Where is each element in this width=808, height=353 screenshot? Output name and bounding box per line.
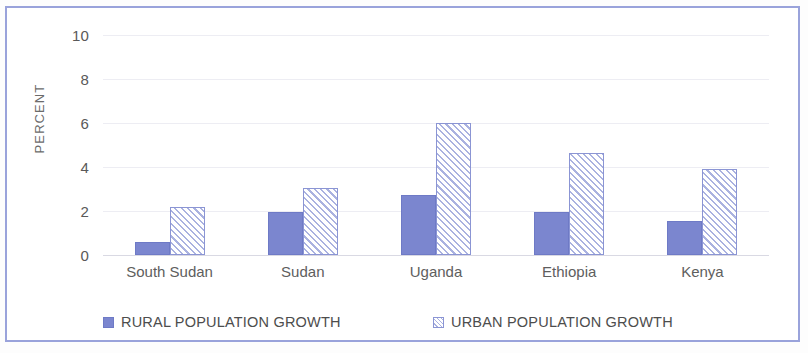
bar-group — [236, 35, 369, 255]
bar-rural[interactable] — [667, 221, 702, 255]
bar-rural[interactable] — [534, 212, 569, 255]
legend-item-rural: RURAL POPULATION GROWTH — [103, 314, 433, 330]
bars — [503, 35, 636, 255]
bars — [236, 35, 369, 255]
bars — [369, 35, 502, 255]
bar-urban[interactable] — [569, 153, 604, 255]
x-axis-labels: South SudanSudanUgandaEthiopiaKenya — [103, 263, 769, 280]
x-axis-label: South Sudan — [103, 263, 236, 280]
plot-area: 0246810 — [103, 35, 769, 255]
bar-groups — [103, 35, 769, 255]
bar-group — [636, 35, 769, 255]
bar-group — [369, 35, 502, 255]
bars — [636, 35, 769, 255]
legend-label-rural: RURAL POPULATION GROWTH — [121, 314, 341, 330]
bar-rural[interactable] — [268, 212, 303, 255]
bar-group — [103, 35, 236, 255]
chart-frame: PERCENT 0246810 South SudanSudanUgandaEt… — [5, 6, 800, 342]
y-axis-tick-label: 6 — [49, 115, 89, 132]
x-axis-label: Kenya — [636, 263, 769, 280]
y-axis-tick-label: 4 — [49, 159, 89, 176]
y-axis-title: PERCENT — [29, 8, 51, 228]
x-axis-label: Sudan — [236, 263, 369, 280]
scanned-page: PERCENT 0246810 South SudanSudanUgandaEt… — [0, 0, 808, 353]
legend-item-urban: URBAN POPULATION GROWTH — [433, 314, 673, 330]
bars — [103, 35, 236, 255]
y-axis-tick-label: 2 — [49, 203, 89, 220]
x-axis-label: Ethiopia — [503, 263, 636, 280]
y-axis-tick-label: 0 — [49, 247, 89, 264]
legend-label-urban: URBAN POPULATION GROWTH — [451, 314, 673, 330]
chart-legend: RURAL POPULATION GROWTH URBAN POPULATION… — [103, 314, 733, 330]
bar-rural[interactable] — [401, 195, 436, 256]
x-axis-label: Uganda — [369, 263, 502, 280]
gridline — [103, 255, 769, 256]
y-axis-title-label: PERCENT — [33, 83, 48, 153]
bar-group — [503, 35, 636, 255]
hatched-square-icon — [433, 317, 444, 328]
bar-urban[interactable] — [702, 169, 737, 255]
bar-rural[interactable] — [135, 242, 170, 255]
solid-square-icon — [103, 317, 114, 328]
y-axis-tick-label: 10 — [49, 27, 89, 44]
bar-urban[interactable] — [436, 123, 471, 255]
bar-urban[interactable] — [303, 188, 338, 255]
bar-urban[interactable] — [170, 207, 205, 255]
y-axis-tick-label: 8 — [49, 71, 89, 88]
